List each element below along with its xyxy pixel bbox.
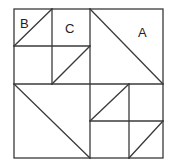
tangram-diagram: B C A — [0, 0, 180, 165]
bottom-right-lower-diagonal — [129, 121, 163, 158]
bottom-right-upper-diagonal — [90, 84, 129, 121]
bottom-left-diagonal — [14, 84, 90, 158]
label-c: C — [65, 21, 74, 36]
label-a: A — [138, 25, 147, 40]
top-left-lower-diagonal — [52, 46, 90, 84]
piece-a-diagonal — [90, 9, 163, 84]
label-b: B — [20, 16, 29, 31]
